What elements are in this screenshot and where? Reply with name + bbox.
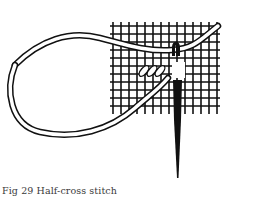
figure-half-cross-stitch: Fig 29 Half-cross stitch	[0, 0, 265, 212]
needle-gap	[172, 62, 185, 78]
figure-caption: Fig 29 Half-cross stitch	[2, 185, 117, 196]
stitch-illustration	[0, 0, 265, 212]
